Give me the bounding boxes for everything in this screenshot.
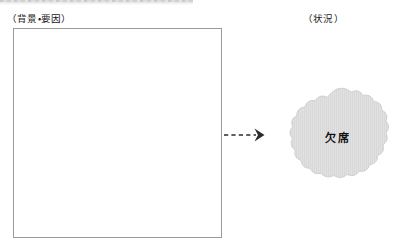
worksheet-canvas: （背景・要因） （状況） 欠席 [0, 0, 400, 247]
dashed-arrow-icon [223, 126, 267, 144]
burst-scan-texture [285, 85, 389, 189]
burst-svg [285, 85, 389, 189]
absence-burst-shape[interactable] [285, 85, 389, 189]
dashed-arrow-svg [223, 126, 267, 144]
situation-column-caption: （状況） [303, 13, 344, 25]
scan-header-band [0, 0, 193, 5]
cause-column-caption: （背景・要因） [7, 13, 71, 25]
cause-input-box[interactable] [13, 28, 222, 238]
